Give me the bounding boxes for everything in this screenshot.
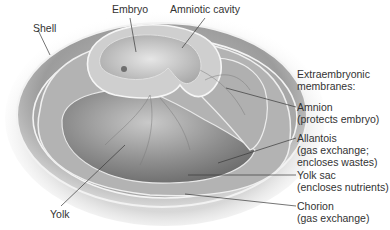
amniotic-egg-diagram: Embryo Amniotic cavity Shell Yolk Extrae… — [0, 0, 390, 230]
allantois-desc-1: (gas exchange; — [297, 144, 378, 156]
label-allantois: Allantois (gas exchange; encloses wastes… — [297, 132, 378, 168]
heading-extraembryonic-membranes: Extraembryonic membranes: — [297, 68, 370, 92]
heading-line-1: Extraembryonic — [297, 68, 370, 80]
label-chorion: Chorion (gas exchange) — [297, 200, 369, 224]
amnion-desc: (protects embryo) — [297, 113, 379, 125]
yolk-sac-desc: (encloses nutrients) — [297, 181, 389, 193]
label-yolk: Yolk — [50, 208, 69, 220]
label-embryo: Embryo — [112, 3, 148, 15]
label-amnion: Amnion (protects embryo) — [297, 101, 379, 125]
chorion-desc: (gas exchange) — [297, 212, 369, 224]
amnion-name: Amnion — [297, 101, 379, 113]
allantois-desc-2: encloses wastes) — [297, 156, 378, 168]
allantois-name: Allantois — [297, 132, 378, 144]
label-shell: Shell — [33, 22, 56, 34]
heading-line-2: membranes: — [297, 80, 370, 92]
embryo — [100, 35, 201, 84]
embryo-eye — [121, 66, 127, 72]
label-amniotic-cavity: Amniotic cavity — [170, 3, 240, 15]
chorion-name: Chorion — [297, 200, 369, 212]
yolk-sac-name: Yolk sac — [297, 169, 389, 181]
label-yolk-sac: Yolk sac (encloses nutrients) — [297, 169, 389, 193]
